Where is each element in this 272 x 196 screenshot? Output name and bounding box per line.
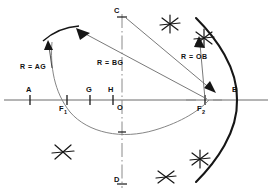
radius-label-r-bg: R = BG [97,59,124,66]
figure-canvas [0,0,272,196]
point-label-b: B [232,86,238,94]
point-label-f2-sub: 2 [202,109,205,115]
construction-crosses [52,15,214,183]
point-label-h: H [108,86,114,94]
cross-lower-left [52,145,74,159]
point-label-f2: F2 [197,105,205,115]
point-label-c: C [114,7,120,15]
arrowhead-r-ob-lower [204,81,216,93]
point-label-a: A [26,86,32,94]
point-label-o: O [117,104,123,112]
compass-arc-r-ag [43,26,79,41]
geometry-figure: A F1 G H O F2 B C D R = AG R = BG R = OB [0,0,272,196]
arrowhead-r-bg [76,28,90,40]
cross-lower-2 [190,150,210,168]
cross-upper-1 [160,15,180,33]
cross-lower-1 [156,171,176,183]
radius-label-r-ob: R = OB [181,53,208,60]
point-label-d: D [114,176,120,184]
point-label-g: G [86,86,92,94]
point-label-f1: F1 [59,105,67,115]
point-label-f1-sub: 1 [64,109,67,115]
radius-label-r-ag: R = AG [20,63,46,70]
